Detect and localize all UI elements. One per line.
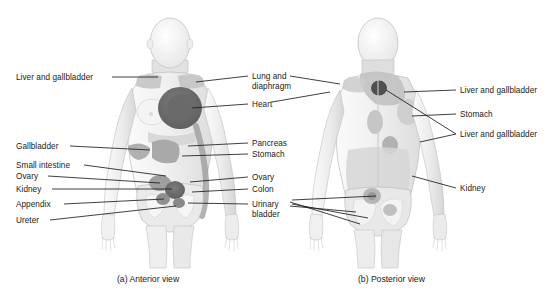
posterior-liver-spot [371,81,387,96]
label-heart: Heart [252,100,272,110]
stomach-region [152,139,180,163]
label-ovary-right: Ovary [252,173,274,183]
label-liver-and-gallbladder-posterior-2: Liver and gallbladder [460,130,537,140]
bladder-region [173,198,185,208]
label-lung-and-diaphragm-line1: Lung and [252,72,287,82]
label-kidney-posterior: Kidney [460,184,485,194]
label-gallbladder: Gallbladder [16,142,58,152]
label-stomach-anterior: Stomach [252,150,285,160]
referred-pain-figure: Liver and gallbladder Gallbladder Small … [0,0,556,300]
caption-posterior-view: (b) Posterior view [358,274,425,284]
label-small-intestine: Small intestine [16,161,70,171]
label-stomach-posterior: Stomach [460,110,493,120]
label-kidney-left: Kidney [16,185,41,195]
label-liver-and-gallbladder-left: Liver and gallbladder [16,73,93,83]
appendix-region [156,193,170,205]
label-urinary-bladder-line2: bladder [252,210,280,220]
posterior-body [309,18,447,268]
posterior-stomach-region [367,110,383,134]
anterior-body [101,18,239,268]
label-liver-and-gallbladder-posterior-1: Liver and gallbladder [460,86,537,96]
label-ureter: Ureter [16,216,39,226]
label-lung-and-diaphragm-line2: diaphragm [252,82,291,92]
label-pancreas: Pancreas [252,139,287,149]
caption-anterior-view: (a) Anterior view [117,274,179,284]
label-appendix: Appendix [16,200,51,210]
label-ovary-left: Ovary [16,172,38,182]
label-urinary-bladder-line1: Urinary [252,200,279,210]
label-colon: Colon [252,185,274,195]
